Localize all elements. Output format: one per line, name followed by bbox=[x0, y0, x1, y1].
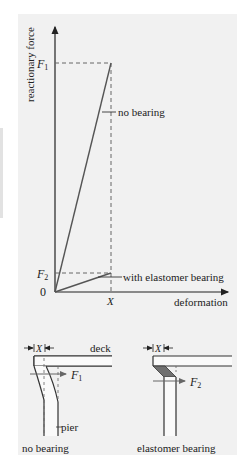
elastomer-bearing-label: with elastomer bearing bbox=[123, 271, 224, 283]
force-deformation-graph: reactionary force F1 F2 0 X deformation … bbox=[24, 27, 228, 308]
no-bearing-line bbox=[55, 63, 111, 292]
force-label-f2: F2 bbox=[189, 375, 201, 390]
deck bbox=[153, 356, 232, 366]
f2-tick-label: F2 bbox=[36, 267, 48, 282]
f1-tick-label: F1 bbox=[36, 57, 48, 72]
no-bearing-sketch: X deck F1 pier no bearing bbox=[22, 342, 112, 454]
no-bearing-label: no bearing bbox=[118, 106, 165, 118]
pier bbox=[164, 377, 176, 436]
y-axis-label: reactionary force bbox=[24, 27, 36, 102]
disp-label: X bbox=[154, 343, 162, 354]
figure: reactionary force F1 F2 0 X deformation … bbox=[0, 0, 244, 465]
no-bearing-caption: no bearing bbox=[22, 442, 69, 454]
force-label-f1: F1 bbox=[70, 368, 82, 383]
elastomer-bearing bbox=[153, 366, 176, 377]
pier-label: pier bbox=[61, 421, 78, 433]
x-tick-label: X bbox=[106, 295, 115, 307]
elastomer-bearing-line bbox=[55, 273, 111, 292]
elastomer-bearing-caption: elastomer bearing bbox=[137, 442, 216, 454]
disp-label: X bbox=[35, 343, 43, 354]
deck-label: deck bbox=[90, 342, 111, 354]
x-axis-label: deformation bbox=[174, 296, 228, 308]
origin-label: 0 bbox=[40, 285, 46, 299]
elastomer-bearing-sketch: X F2 elastomer bearing bbox=[137, 343, 232, 454]
